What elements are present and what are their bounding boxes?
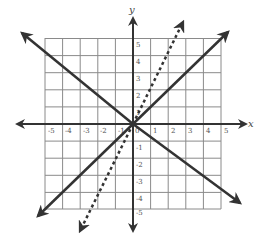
svg-text:5: 5 bbox=[224, 127, 228, 135]
svg-text:-2: -2 bbox=[136, 161, 143, 169]
svg-text:-4: -4 bbox=[65, 127, 72, 135]
svg-text:-4: -4 bbox=[136, 195, 143, 203]
svg-text:3: 3 bbox=[136, 75, 140, 83]
y-axis-label: y bbox=[128, 4, 135, 15]
line-y-equals-neg-x bbox=[133, 124, 240, 203]
svg-text:-3: -3 bbox=[83, 127, 90, 135]
svg-text:-5: -5 bbox=[136, 209, 143, 217]
svg-text:-1: -1 bbox=[136, 144, 143, 152]
coordinate-plane: y x -5 -4 -3 -2 -1 0 1 2 3 4 5 5 4 3 2 1… bbox=[0, 0, 264, 244]
svg-text:4: 4 bbox=[206, 127, 211, 135]
svg-text:5: 5 bbox=[136, 41, 140, 49]
svg-text:2: 2 bbox=[136, 92, 140, 100]
svg-text:-5: -5 bbox=[48, 127, 55, 135]
svg-text:-3: -3 bbox=[136, 178, 143, 186]
x-axis-label: x bbox=[248, 118, 254, 129]
svg-text:1: 1 bbox=[153, 127, 157, 135]
svg-text:2: 2 bbox=[171, 127, 175, 135]
line-y-equals-x bbox=[133, 32, 228, 124]
svg-text:3: 3 bbox=[188, 127, 192, 135]
svg-text:-2: -2 bbox=[100, 127, 107, 135]
svg-text:4: 4 bbox=[136, 58, 141, 66]
line-y-equals-neg-x bbox=[22, 33, 133, 124]
line-y-equals-x bbox=[38, 124, 133, 216]
line-y-equals-2x bbox=[80, 124, 133, 231]
